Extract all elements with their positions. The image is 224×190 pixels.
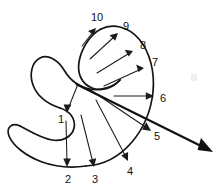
vector-7 bbox=[104, 64, 144, 86]
label-2: 2 bbox=[65, 173, 71, 185]
vector-4-shaft bbox=[96, 100, 126, 157]
vector-9 bbox=[90, 33, 118, 59]
vector-9-shaft bbox=[90, 37, 114, 59]
vector-2 bbox=[63, 121, 71, 167]
vector-1-head bbox=[64, 104, 72, 113]
label-1: 1 bbox=[58, 113, 64, 125]
vector-6 bbox=[114, 92, 154, 99]
closed-curve bbox=[8, 26, 153, 167]
label-6: 6 bbox=[160, 92, 166, 104]
vector-8 bbox=[97, 50, 133, 73]
tangent-arrow-shaft bbox=[76, 84, 203, 147]
label-8: 8 bbox=[140, 39, 146, 51]
vector-4-head bbox=[121, 152, 128, 161]
vector-8-shaft bbox=[97, 54, 128, 73]
curve-vectors-diagram: 1 2 3 4 5 6 7 8 9 10 bbox=[0, 0, 224, 190]
label-4: 4 bbox=[127, 165, 133, 177]
vector-10-shaft bbox=[82, 32, 93, 46]
tangent-arrow-head bbox=[198, 138, 214, 152]
vector-3 bbox=[81, 115, 96, 167]
label-5: 5 bbox=[154, 130, 160, 142]
label-7: 7 bbox=[152, 56, 158, 68]
vector-2-head bbox=[63, 159, 71, 168]
vector-4 bbox=[96, 100, 128, 161]
label-9: 9 bbox=[123, 20, 129, 32]
vector-7-shaft bbox=[104, 70, 139, 86]
vector-10-head bbox=[88, 28, 96, 36]
scan-speck bbox=[191, 74, 197, 81]
curve-lower-left-lobe bbox=[8, 125, 86, 167]
label-10: 10 bbox=[91, 11, 103, 23]
vector-3-shaft bbox=[81, 115, 93, 163]
tangent-arrow bbox=[76, 84, 213, 152]
label-3: 3 bbox=[92, 173, 98, 185]
vector-2-shaft bbox=[66, 121, 67, 163]
vector-10 bbox=[82, 28, 96, 46]
vector-1 bbox=[64, 84, 78, 113]
